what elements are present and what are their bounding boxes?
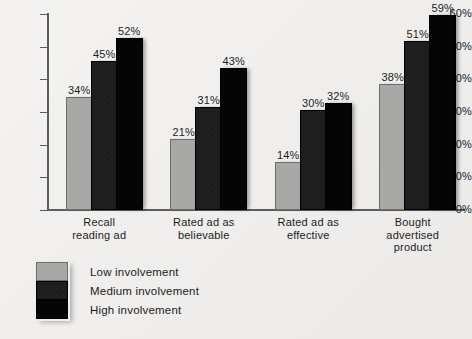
bar-value-label: 32% [327, 90, 350, 102]
bar: 31% [195, 107, 222, 210]
bar-chart: 0%10%20%30%40%50%60% 34%45%52%21%31%43%1… [0, 0, 472, 339]
bar: 21% [170, 139, 197, 210]
legend-label: Medium involvement [90, 285, 199, 297]
bar-value-label: 51% [406, 28, 429, 40]
legend-swatch [36, 262, 68, 281]
bar-value-label: 34% [68, 84, 91, 96]
bar-value-label: 38% [381, 71, 404, 83]
category-label-line: Rated ad as [256, 216, 361, 229]
x-axis-category-label: Recallreading ad [47, 216, 152, 241]
x-axis-category-label: Boughtadvertisedproduct [361, 216, 466, 254]
legend-item[interactable]: High involvement [36, 300, 199, 319]
bar: 45% [91, 61, 118, 210]
legend-swatch [36, 300, 68, 319]
bar: 30% [300, 110, 327, 210]
bar-value-label: 59% [431, 2, 454, 14]
bar-value-label: 21% [172, 126, 195, 138]
category-label-line: Recall [47, 216, 152, 229]
bar: 59% [429, 15, 456, 210]
bar-value-label: 43% [222, 55, 245, 67]
category-label-line: reading ad [47, 229, 152, 242]
category-label-line: Bought [361, 216, 466, 229]
bar: 34% [66, 97, 93, 210]
y-axis-tick [40, 210, 48, 211]
bar-value-label: 45% [93, 48, 116, 60]
bar-value-label: 52% [118, 25, 141, 37]
category-label-line: Rated ad as [152, 216, 257, 229]
bar: 32% [325, 103, 352, 210]
category-label-line: believable [152, 229, 257, 242]
chart-legend: Low involvementMedium involvementHigh in… [36, 262, 199, 319]
bar: 52% [116, 38, 143, 210]
bar: 38% [379, 84, 406, 210]
bar: 51% [404, 41, 431, 210]
legend-label: High involvement [90, 304, 181, 316]
category-label-line: product [361, 241, 466, 254]
bar-value-label: 30% [302, 97, 325, 109]
bar: 43% [220, 68, 247, 210]
legend-label: Low involvement [90, 266, 179, 278]
legend-swatch [36, 281, 68, 300]
bar-value-label: 14% [277, 149, 300, 161]
bar: 14% [275, 162, 302, 210]
bar-value-label: 31% [197, 94, 220, 106]
category-label-line: effective [256, 229, 361, 242]
category-label-line: advertised [361, 229, 466, 242]
plot-area: 34%45%52%21%31%43%14%30%32%38%51%59% [47, 14, 465, 210]
legend-item[interactable]: Medium involvement [36, 281, 199, 300]
x-axis-category-label: Rated ad asbelievable [152, 216, 257, 241]
x-axis-category-label: Rated ad aseffective [256, 216, 361, 241]
legend-item[interactable]: Low involvement [36, 262, 199, 281]
